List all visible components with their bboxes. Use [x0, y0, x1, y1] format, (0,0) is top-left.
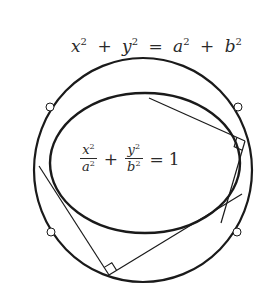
ellipse-equation-label: x2 a2 + y2 b2 = 1	[78, 143, 180, 174]
tangent-line-lower-a	[39, 166, 109, 275]
marked-point-bottom-left	[47, 228, 55, 236]
circle-equation-label: x2 + y2 = a2 + b2	[71, 36, 242, 56]
circle-eq-y: y	[122, 36, 132, 56]
marked-point-top-right	[234, 103, 242, 111]
right-angle-marker-lower	[104, 263, 116, 271]
marked-point-top-left	[46, 103, 54, 111]
ellipse-eq-rhs: 1	[169, 149, 180, 169]
tangent-line-upper-b	[221, 141, 245, 223]
circle-eq-b: b	[225, 36, 236, 56]
circle-eq-a: a	[173, 36, 183, 56]
tangent-line-lower-b	[109, 194, 242, 275]
circle-eq-x: x	[71, 36, 81, 56]
ellipse-eq-term-y: y2 b2	[125, 143, 142, 174]
ellipse-eq-term-x: x2 a2	[80, 143, 97, 174]
marked-point-bottom-right	[233, 228, 241, 236]
